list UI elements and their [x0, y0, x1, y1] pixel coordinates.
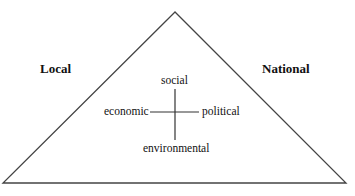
cross-label-political: political [202, 106, 240, 118]
cross-label-social: social [161, 75, 188, 87]
triangle-diagram: Local National social economic political… [0, 0, 355, 196]
corner-label-national: National [262, 62, 310, 75]
triangle-shape [0, 0, 355, 196]
cross-label-economic: economic [104, 106, 149, 118]
cross-label-environmental: environmental [143, 143, 209, 155]
corner-label-local: Local [40, 62, 71, 75]
